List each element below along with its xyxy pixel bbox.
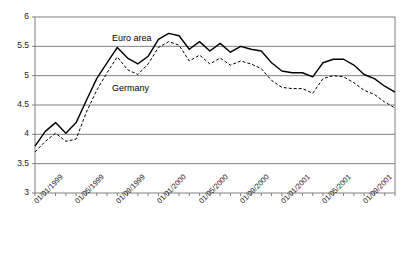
euro-area-label: Euro area	[112, 33, 152, 43]
y-axis-label: 6	[3, 12, 29, 21]
y-axis-label: 4.5	[3, 100, 29, 109]
line-chart: 33.544.555.5601/01/199901/05/199901/09/1…	[0, 0, 409, 274]
series-line-euro-area	[35, 33, 395, 146]
y-axis-label: 5	[3, 71, 29, 80]
germany-label: Germany	[112, 83, 149, 93]
y-axis-label: 4	[3, 129, 29, 138]
series-line-germany	[35, 42, 395, 152]
y-axis-label: 5.5	[3, 41, 29, 50]
y-axis-label: 3	[3, 188, 29, 197]
y-axis-label: 3.5	[3, 159, 29, 168]
chart-canvas	[0, 0, 409, 274]
